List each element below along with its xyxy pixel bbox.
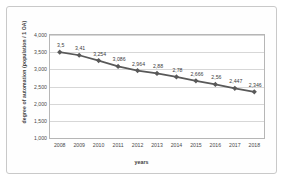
x-axis-tick-label: 2013 bbox=[151, 142, 163, 148]
x-axis-tick-label: 2017 bbox=[229, 142, 241, 148]
plot-area: 1,0001,5002,0002,5003,0003,5004,000 2008… bbox=[49, 34, 265, 139]
y-axis-tick-label: 1,500 bbox=[34, 118, 47, 124]
data-point-label: 2,346 bbox=[249, 82, 262, 88]
data-point-marker bbox=[154, 71, 159, 76]
x-axis-title: years bbox=[7, 159, 276, 165]
data-point-label: 3,086 bbox=[113, 56, 126, 62]
x-axis-tick-label: 2009 bbox=[73, 142, 85, 148]
y-axis-tick-label: 3,500 bbox=[34, 49, 47, 55]
data-point-label: 3,5 bbox=[57, 42, 64, 48]
x-axis-tick-label: 2015 bbox=[190, 142, 202, 148]
data-point-marker bbox=[193, 78, 198, 83]
chart-frame: degree of automation (population / 1 OA)… bbox=[6, 6, 277, 174]
data-point-label: 3,41 bbox=[75, 45, 85, 51]
x-axis-tick-label: 2011 bbox=[113, 142, 124, 148]
x-axis-tick-label: 2012 bbox=[132, 142, 144, 148]
data-point-marker bbox=[77, 53, 82, 58]
data-point-marker bbox=[135, 68, 140, 73]
data-point-marker bbox=[115, 64, 120, 69]
data-point-marker bbox=[174, 74, 179, 79]
data-point-marker bbox=[96, 58, 101, 63]
x-axis-tick-label: 2016 bbox=[210, 142, 222, 148]
y-axis-tick-label: 1,000 bbox=[34, 135, 47, 141]
data-point-label: 2,666 bbox=[190, 71, 203, 77]
data-point-label: 2,964 bbox=[132, 61, 145, 67]
x-axis-tick-label: 2010 bbox=[93, 142, 105, 148]
data-point-label: 2,88 bbox=[153, 63, 163, 69]
data-point-marker bbox=[252, 89, 257, 94]
y-axis-tick-label: 4,000 bbox=[34, 32, 47, 38]
y-axis-tick-label: 2,000 bbox=[34, 101, 47, 107]
data-point-label: 3,254 bbox=[93, 51, 106, 57]
data-point-marker bbox=[213, 82, 218, 87]
data-point-label: 2,56 bbox=[211, 74, 221, 80]
y-axis-title: degree of automation (population / 1 OA) bbox=[21, 17, 27, 127]
data-point-label: 2,78 bbox=[172, 67, 182, 73]
x-axis-tick-label: 2018 bbox=[248, 142, 260, 148]
y-axis-tick-label: 3,000 bbox=[34, 66, 47, 72]
x-axis-tick-label: 2008 bbox=[54, 142, 66, 148]
data-point-label: 2,447 bbox=[229, 78, 242, 84]
data-point-marker bbox=[57, 50, 62, 55]
y-axis-tick-label: 2,500 bbox=[34, 84, 47, 90]
x-axis-tick-label: 2014 bbox=[171, 142, 183, 148]
data-point-marker bbox=[232, 86, 237, 91]
